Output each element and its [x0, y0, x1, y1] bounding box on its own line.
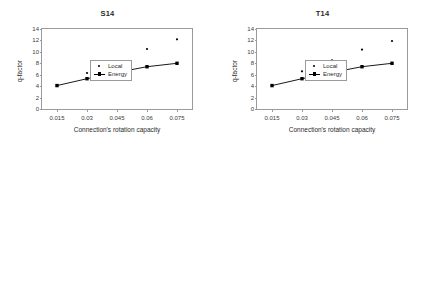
energy-data-point	[55, 84, 58, 87]
chart-panel-t32: T32 q-factor Connection's rotation capac…	[215, 150, 430, 297]
y-tick-label: 0	[36, 106, 39, 112]
x-tick-mark	[177, 109, 178, 112]
y-tick-label: 10	[32, 49, 39, 55]
y-tick-label: 14	[247, 26, 254, 32]
plot-area: Local Energy 024681012140.0150.030.0450.…	[41, 28, 193, 110]
energy-data-point	[360, 65, 363, 68]
y-tick-label: 14	[32, 26, 39, 32]
x-tick-mark	[392, 109, 393, 112]
y-tick-mark	[255, 29, 258, 30]
energy-data-point	[145, 65, 148, 68]
x-tick-mark	[362, 109, 363, 112]
legend-label-energy: Energy	[108, 71, 127, 78]
y-tick-mark	[40, 52, 43, 53]
y-tick-label: 12	[32, 37, 39, 43]
x-tick-label: 0.015	[49, 115, 64, 121]
x-tick-label: 0.03	[296, 115, 308, 121]
y-tick-mark	[255, 86, 258, 87]
chart-legend: Local Energy	[305, 60, 347, 81]
y-axis-label: q-factor	[16, 60, 23, 82]
local-marker-icon	[94, 63, 105, 70]
x-tick-mark	[57, 109, 58, 112]
y-tick-label: 10	[247, 49, 254, 55]
x-tick-label: 0.06	[141, 115, 153, 121]
local-data-point	[176, 38, 178, 40]
x-tick-label: 0.075	[384, 115, 399, 121]
y-tick-label: 2	[36, 95, 39, 101]
local-data-point	[391, 40, 393, 42]
y-tick-label: 2	[251, 95, 254, 101]
y-tick-mark	[255, 52, 258, 53]
chart-title: T14	[215, 9, 430, 18]
legend-label-energy: Energy	[323, 71, 342, 78]
y-tick-label: 4	[251, 83, 254, 89]
chart-panel-s32: S32 q-factor Connection's rotation capac…	[0, 150, 215, 297]
y-tick-mark	[255, 63, 258, 64]
local-data-point	[146, 48, 148, 50]
energy-marker-icon	[94, 71, 105, 78]
y-tick-label: 4	[36, 83, 39, 89]
x-tick-mark	[117, 109, 118, 112]
energy-marker-icon	[309, 71, 320, 78]
y-tick-label: 6	[36, 72, 39, 78]
x-axis-label: Connection's rotation capacity	[41, 126, 193, 133]
legend-item-local: Local	[309, 63, 342, 70]
x-tick-label: 0.045	[109, 115, 124, 121]
legend-item-energy: Energy	[94, 71, 127, 78]
local-data-point	[301, 70, 303, 72]
energy-data-point	[175, 62, 178, 65]
y-tick-mark	[255, 109, 258, 110]
y-tick-label: 8	[36, 60, 39, 66]
figure-grid: S14 q-factor Connection's rotation capac…	[0, 0, 430, 297]
x-tick-label: 0.045	[324, 115, 339, 121]
x-tick-label: 0.015	[264, 115, 279, 121]
legend-label-local: Local	[323, 63, 337, 70]
x-tick-mark	[332, 109, 333, 112]
chart-legend: Local Energy	[90, 60, 132, 81]
y-tick-mark	[40, 75, 43, 76]
energy-data-point	[390, 62, 393, 65]
energy-data-point	[300, 77, 303, 80]
y-tick-label: 8	[251, 60, 254, 66]
legend-item-energy: Energy	[309, 71, 342, 78]
y-tick-label: 6	[251, 72, 254, 78]
local-data-point	[86, 72, 88, 74]
y-tick-label: 0	[251, 106, 254, 112]
y-tick-mark	[40, 86, 43, 87]
y-tick-label: 12	[247, 37, 254, 43]
y-axis-label: q-factor	[231, 60, 238, 82]
y-tick-mark	[40, 109, 43, 110]
y-tick-mark	[40, 63, 43, 64]
y-tick-mark	[255, 40, 258, 41]
y-tick-mark	[255, 75, 258, 76]
x-tick-label: 0.06	[356, 115, 368, 121]
y-tick-mark	[40, 29, 43, 30]
x-axis-label: Connection's rotation capacity	[256, 126, 408, 133]
x-tick-label: 0.03	[81, 115, 93, 121]
y-tick-mark	[40, 98, 43, 99]
legend-item-local: Local	[94, 63, 127, 70]
x-tick-mark	[272, 109, 273, 112]
energy-data-point	[270, 84, 273, 87]
energy-data-point	[85, 77, 88, 80]
chart-panel-s14: S14 q-factor Connection's rotation capac…	[0, 0, 215, 150]
y-tick-mark	[255, 98, 258, 99]
chart-panel-t14: T14 q-factor Connection's rotation capac…	[215, 0, 430, 150]
plot-area: Local Energy 024681012140.0150.030.0450.…	[256, 28, 408, 110]
x-tick-mark	[147, 109, 148, 112]
local-data-point	[361, 48, 363, 50]
local-marker-icon	[309, 63, 320, 70]
chart-title: S14	[0, 9, 215, 18]
x-tick-label: 0.075	[169, 115, 184, 121]
x-tick-mark	[87, 109, 88, 112]
legend-label-local: Local	[108, 63, 122, 70]
x-tick-mark	[302, 109, 303, 112]
y-tick-mark	[40, 40, 43, 41]
